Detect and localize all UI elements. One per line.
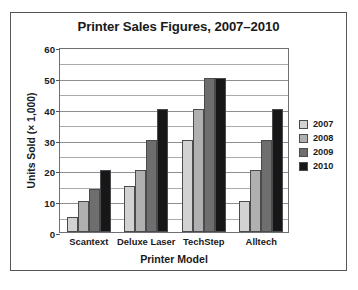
bar[interactable] (272, 109, 283, 232)
legend-item[interactable]: 2008 (299, 131, 333, 145)
bar-group (182, 49, 226, 232)
legend-label: 2009 (313, 147, 333, 157)
bar-group (239, 49, 283, 232)
x-tick-label: Scantext (69, 236, 108, 247)
y-tick-mark (56, 234, 60, 235)
y-tick-mark (56, 49, 60, 50)
legend-label: 2007 (313, 119, 333, 129)
bar[interactable] (135, 170, 146, 232)
x-tick-label: Deluxe Laser (117, 236, 175, 247)
bar[interactable] (193, 109, 204, 232)
y-tick-mark (56, 111, 60, 112)
legend-item[interactable]: 2010 (299, 159, 333, 173)
y-tick-label: 0 (50, 229, 55, 240)
chart-title: Printer Sales Figures, 2007–2010 (11, 19, 346, 34)
bar[interactable] (124, 186, 135, 232)
x-tick-label: TechStep (183, 236, 225, 247)
bar[interactable] (89, 189, 100, 232)
bar[interactable] (157, 109, 168, 232)
y-tick-label: 60 (44, 44, 55, 55)
x-axis-title: Printer Model (59, 253, 289, 265)
bar[interactable] (239, 201, 250, 232)
legend-item[interactable]: 2007 (299, 117, 333, 131)
figure-frame: Printer Sales Figures, 2007–2010 Units S… (10, 12, 347, 271)
bar[interactable] (78, 201, 89, 232)
legend-label: 2008 (313, 133, 333, 143)
y-tick-label: 20 (44, 167, 55, 178)
y-tick-mark (56, 203, 60, 204)
legend-swatch (299, 148, 308, 157)
legend-label: 2010 (313, 161, 333, 171)
y-tick-label: 30 (44, 136, 55, 147)
plot-area: 0102030405060ScantextDeluxe LaserTechSte… (59, 48, 289, 233)
bar[interactable] (100, 170, 111, 232)
y-axis-title: Units Sold (× 1,000) (23, 48, 39, 233)
y-tick-label: 50 (44, 74, 55, 85)
bar[interactable] (215, 78, 226, 232)
y-tick-mark (56, 80, 60, 81)
bar[interactable] (182, 140, 193, 233)
legend-swatch (299, 162, 308, 171)
legend-swatch (299, 120, 308, 129)
chart-legend: 2007200820092010 (299, 117, 333, 173)
bar[interactable] (204, 78, 215, 232)
y-tick-mark (56, 172, 60, 173)
y-axis-title-label: Units Sold (× 1,000) (26, 92, 37, 188)
y-tick-label: 10 (44, 198, 55, 209)
legend-item[interactable]: 2009 (299, 145, 333, 159)
bar[interactable] (146, 140, 157, 233)
x-tick-label: Alltech (246, 236, 277, 247)
legend-swatch (299, 134, 308, 143)
bar[interactable] (261, 140, 272, 233)
bar[interactable] (250, 170, 261, 232)
y-tick-label: 40 (44, 105, 55, 116)
bar[interactable] (67, 217, 78, 232)
bar-group (124, 49, 168, 232)
bar-group (67, 49, 111, 232)
y-tick-mark (56, 142, 60, 143)
